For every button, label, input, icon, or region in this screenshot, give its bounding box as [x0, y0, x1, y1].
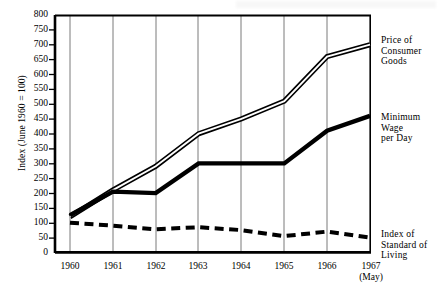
x-tick-1967: 1967 (May): [346, 261, 396, 283]
series-living-line: [70, 223, 370, 238]
series-wage-line: [70, 116, 370, 215]
x-tick-1966-label: 1966: [318, 261, 337, 271]
x-tick-1962-label: 1962: [147, 261, 166, 271]
series-label-wage-line3: per Day: [381, 133, 420, 144]
x-tick-1961-label: 1961: [104, 261, 123, 271]
x-tick-1965-label: 1965: [275, 261, 294, 271]
x-tick-1960-label: 1960: [61, 261, 80, 271]
x-tick-1967-label: 1967: [362, 261, 381, 271]
series-label-living-line2: Standard of: [381, 240, 427, 251]
series-label-price-line3: Goods: [381, 56, 422, 67]
x-tick-1967-sublabel: (May): [346, 272, 396, 283]
series-label-index-of-standard-of-living: Index of Standard of Living: [381, 229, 427, 261]
x-tick-1966: 1966: [302, 261, 352, 272]
series-minimum-wage-per-day: [70, 116, 370, 215]
series-label-price-line1: Price of: [381, 35, 422, 46]
series-label-price-line2: Consumer: [381, 46, 422, 57]
x-tick-1963-label: 1963: [189, 261, 208, 271]
x-tick-1964-label: 1964: [232, 261, 251, 271]
series-label-minimum-wage-per-day: Minimum Wage per Day: [381, 112, 420, 144]
series-index-of-standard-of-living: [70, 223, 370, 238]
plot-area: [0, 0, 442, 299]
series-label-living-line1: Index of: [381, 229, 427, 240]
chart-root: Index (June 1960 = 100) 800 750 700 650 …: [0, 0, 442, 299]
series-label-wage-line2: Wage: [381, 123, 420, 134]
series-label-living-line3: Living: [381, 250, 427, 261]
series-label-price-of-consumer-goods: Price of Consumer Goods: [381, 35, 422, 67]
series-label-wage-line1: Minimum: [381, 112, 420, 123]
